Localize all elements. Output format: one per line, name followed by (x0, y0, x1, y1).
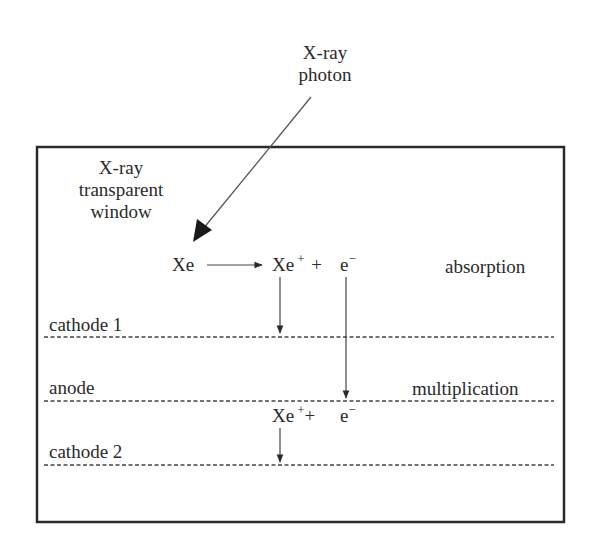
bottom-ion-symbol: Xe (272, 405, 294, 426)
bottom-plus-sign: + (305, 405, 316, 426)
window-label-line3: window (68, 201, 174, 223)
bottom-ion-xe-plus: Xe++ (272, 405, 315, 429)
cathode-1-label: cathode 1 (49, 314, 122, 336)
bottom-ion-charge: + (297, 402, 304, 417)
photon-label-line2: photon (282, 64, 368, 86)
top-ion-xe-plus: Xe+ + (272, 254, 322, 278)
top-ion-charge: + (297, 251, 304, 266)
top-plus-sign: + (311, 254, 322, 275)
photon-label: X-ray photon (282, 42, 368, 86)
window-label-line2: transparent (68, 179, 174, 201)
absorption-region-label: absorption (445, 256, 525, 278)
bottom-electron: e− (340, 405, 356, 429)
window-label-line1: X-ray (68, 157, 174, 179)
anode-label: anode (49, 377, 94, 399)
window-label: X-ray transparent window (68, 157, 174, 223)
photon-label-line1: X-ray (282, 42, 368, 64)
multiplication-region-label: multiplication (412, 378, 519, 400)
top-electron: e− (340, 254, 356, 278)
photon-path-line (203, 97, 311, 229)
reactant-xe: Xe (172, 254, 194, 276)
bottom-electron-charge: − (348, 402, 355, 417)
top-electron-charge: − (348, 251, 355, 266)
reactant-xe-text: Xe (172, 254, 194, 275)
cathode-2-label: cathode 2 (49, 441, 122, 463)
top-ion-symbol: Xe (272, 254, 294, 275)
